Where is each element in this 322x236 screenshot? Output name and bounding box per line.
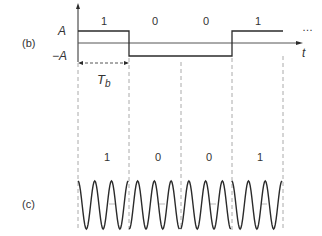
panel-b-label: (b)	[22, 37, 35, 49]
level-high-label: A	[57, 24, 66, 38]
panel-c-label: (c)	[22, 198, 35, 210]
y-axis-arrow-icon	[76, 3, 80, 9]
modulated-carrier-waveform	[78, 181, 282, 229]
carrier-bit-label-3: 0	[206, 151, 212, 163]
time-axis-arrow-icon	[296, 41, 303, 45]
level-low-label: −A	[52, 49, 67, 63]
bit-label-1: 1	[101, 15, 107, 27]
bpsk-diagram: (b) A −A t … 1 0 0 1 Tb (c) 1 0 0 1	[0, 0, 322, 236]
continuation-ellipsis: …	[302, 21, 313, 33]
bit-label-4: 1	[255, 15, 261, 27]
dimension-arrow-left-icon	[78, 61, 83, 65]
dimension-arrow-right-icon	[124, 61, 129, 65]
time-axis-label: t	[302, 46, 306, 60]
carrier-bit-label-2: 0	[155, 151, 161, 163]
bit-period-label: Tb	[97, 72, 111, 89]
carrier-bit-label-1: 1	[104, 151, 110, 163]
carrier-bit-label-4: 1	[257, 151, 263, 163]
bit-label-3: 0	[203, 15, 209, 27]
bit-label-2: 0	[152, 15, 158, 27]
